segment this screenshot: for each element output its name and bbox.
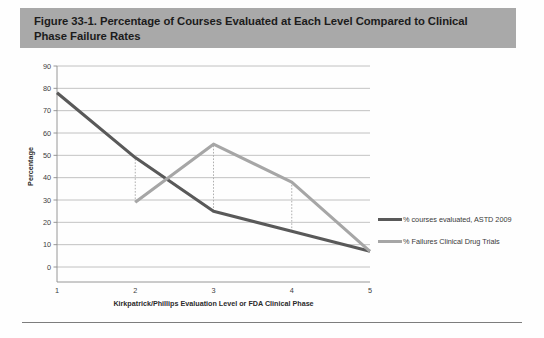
legend-item-label: % courses evaluated, ASTD 2009	[403, 215, 512, 224]
chart-legend: % courses evaluated, ASTD 2009 % Failure…	[378, 210, 538, 254]
x-axis-tick-labels: 12345	[55, 286, 372, 295]
y-axis-title: Percentage	[26, 147, 35, 186]
chart-figure: 0102030405060708090 12345 Percentage Kir…	[0, 48, 544, 308]
svg-text:30: 30	[43, 196, 51, 205]
svg-text:2: 2	[133, 286, 137, 295]
svg-text:1: 1	[55, 286, 59, 295]
svg-text:0: 0	[47, 263, 51, 272]
svg-text:80: 80	[43, 84, 51, 93]
chart-gridlines	[57, 66, 370, 267]
legend-item: % Failures Clinical Drug Trials	[378, 232, 538, 250]
y-axis-tick-labels: 0102030405060708090	[43, 62, 51, 272]
svg-text:3: 3	[211, 286, 215, 295]
chart-axes	[54, 66, 371, 282]
footer-divider	[22, 322, 522, 323]
chart-droplines	[135, 144, 292, 231]
svg-text:4: 4	[290, 286, 294, 295]
legend-swatch-icon	[378, 218, 402, 221]
svg-text:20: 20	[43, 218, 51, 227]
figure-title: Figure 33-1. Percentage of Courses Evalu…	[34, 14, 502, 43]
legend-swatch-icon	[378, 240, 402, 243]
svg-text:60: 60	[43, 129, 51, 138]
legend-item-label: % Failures Clinical Drug Trials	[403, 237, 500, 246]
figure-page: Figure 33-1. Percentage of Courses Evalu…	[0, 0, 544, 338]
svg-text:50: 50	[43, 151, 51, 160]
svg-text:70: 70	[43, 106, 51, 115]
x-axis-title: Kirkpatrick/Phillips Evaluation Level or…	[113, 299, 313, 308]
figure-title-banner: Figure 33-1. Percentage of Courses Evalu…	[20, 8, 516, 48]
legend-item: % courses evaluated, ASTD 2009	[378, 210, 538, 228]
line-chart: 0102030405060708090 12345 Percentage Kir…	[0, 48, 544, 308]
svg-text:40: 40	[43, 173, 51, 182]
svg-text:5: 5	[368, 286, 372, 295]
svg-text:10: 10	[43, 240, 51, 249]
svg-text:90: 90	[43, 62, 51, 71]
